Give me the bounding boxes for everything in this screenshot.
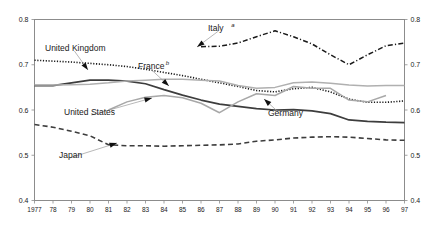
x-tick-label: 89 (253, 206, 261, 213)
y-tick-label-right: 0.7 (411, 61, 421, 68)
x-tick-label: 93 (327, 206, 335, 213)
series-label-japan: Japan (59, 150, 82, 160)
y-tick-label: 0.6 (19, 107, 29, 114)
y-tick-label-right: 0.8 (411, 16, 421, 23)
x-tick-label: 88 (234, 206, 242, 213)
x-tick-label: 96 (382, 206, 390, 213)
x-tick-label: 95 (364, 206, 372, 213)
series-label-france: France (138, 61, 165, 71)
series-label-italy: Italy (208, 23, 224, 33)
x-tick-label: 91 (290, 206, 298, 213)
series-label-united-states: United States (64, 107, 115, 117)
y-tick-label-right: 0.4 (411, 197, 421, 204)
series-label-united-kingdom: United Kingdom (45, 43, 105, 53)
x-tick-label: 83 (142, 206, 150, 213)
x-tick-label: 1977 (27, 206, 42, 213)
y-tick-label: 0.5 (19, 152, 29, 159)
x-tick-label: 94 (345, 206, 353, 213)
x-tick-label: 90 (271, 206, 279, 213)
y-tick-label: 0.8 (19, 16, 29, 23)
x-tick-label: 80 (86, 206, 94, 213)
x-tick-label: 97 (401, 206, 409, 213)
chart-container: 0.40.50.60.70.8 0.40.50.60.70.8 19777879… (0, 0, 439, 230)
x-tick-label: 85 (179, 206, 187, 213)
y-tick-label-right: 0.6 (411, 107, 421, 114)
y-tick-label: 0.7 (19, 61, 29, 68)
x-tick-label: 82 (123, 206, 131, 213)
y-tick-label-right: 0.5 (411, 152, 421, 159)
x-tick-label: 92 (308, 206, 316, 213)
series-label-germany: Germany (268, 108, 304, 118)
x-tick-label: 86 (197, 206, 205, 213)
x-tick-label: 79 (68, 206, 76, 213)
x-tick-label: 87 (216, 206, 224, 213)
line-chart: 0.40.50.60.70.8 0.40.50.60.70.8 19777879… (0, 0, 439, 230)
y-tick-label: 0.4 (19, 197, 29, 204)
x-tick-label: 78 (49, 206, 57, 213)
x-tick-label: 81 (105, 206, 113, 213)
x-tick-label: 84 (160, 206, 168, 213)
